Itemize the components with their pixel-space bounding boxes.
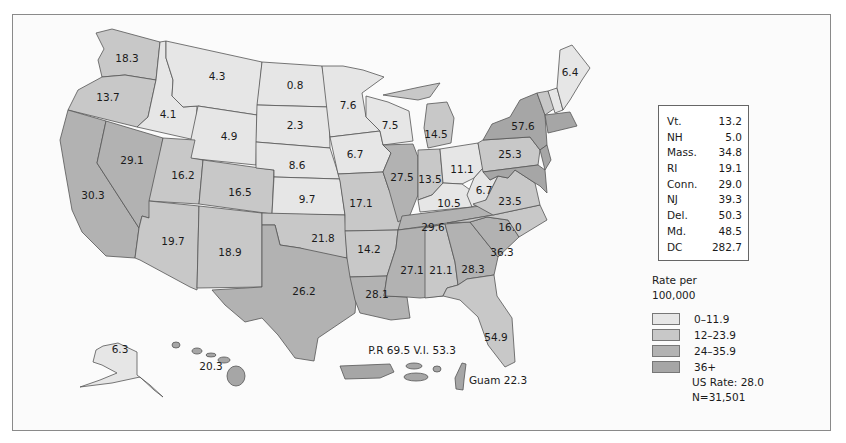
legend-swatch (652, 345, 680, 357)
legend-swatch (652, 329, 680, 341)
label-NE: 8.6 (289, 159, 306, 171)
legend-title-line1: Rate per (652, 273, 764, 288)
table-row: Md.48.5 (667, 224, 742, 240)
label-GA: 28.3 (461, 263, 484, 275)
label-NC: 16.0 (498, 221, 521, 233)
legend-title-line2: 100,000 (652, 288, 764, 303)
territory-VI (433, 366, 441, 372)
label-KY: 10.5 (437, 197, 460, 209)
label-FL: 54.9 (484, 331, 507, 343)
label-AL: 21.1 (429, 264, 452, 276)
label-IL: 27.5 (390, 171, 413, 183)
label-ID: 4.1 (160, 108, 177, 120)
table-row: DC282.7 (667, 240, 742, 256)
territory-PR (340, 364, 394, 379)
small-states-table: Vt.13.2 NH5.0 Mass.34.8 RI19.1 Conn.29.0… (658, 105, 749, 261)
table-row: Mass.34.8 (667, 145, 742, 161)
state-HI-island (206, 353, 216, 357)
table-row: Conn.29.0 (667, 177, 742, 193)
table-row: NH5.0 (667, 130, 742, 146)
legend-item: 12–23.9 (652, 327, 764, 343)
label-MN: 7.6 (340, 99, 357, 111)
label-guam: Guam 22.3 (469, 374, 527, 386)
label-NY: 57.6 (511, 120, 535, 132)
territory-VI (404, 373, 428, 381)
label-PA: 25.3 (498, 148, 521, 160)
label-ME: 6.4 (562, 66, 579, 78)
label-HI: 20.3 (199, 360, 222, 372)
label-NM: 18.9 (218, 246, 241, 258)
territory-Guam (455, 363, 466, 390)
sample-size: N=31,501 (692, 390, 764, 405)
label-MO: 17.1 (349, 197, 372, 209)
label-IA: 6.7 (347, 148, 364, 160)
table-row: RI19.1 (667, 161, 742, 177)
label-MI: 14.5 (424, 128, 447, 140)
label-OH: 11.1 (450, 163, 473, 175)
label-NV: 29.1 (120, 154, 143, 166)
label-pr-vi: P.R 69.5 V.I. 53.3 (368, 344, 456, 356)
table-row: NJ39.3 (667, 192, 742, 208)
label-SC: 36.3 (490, 246, 513, 258)
label-OK: 21.8 (311, 232, 334, 244)
legend-swatch (652, 361, 680, 373)
table-row: Del.50.3 (667, 208, 742, 224)
label-LA: 28.1 (365, 288, 388, 300)
legend-item: 36+ (652, 359, 764, 375)
label-WY: 4.9 (221, 130, 238, 142)
label-UT: 16.2 (171, 169, 194, 181)
label-CA: 30.3 (81, 189, 104, 201)
state-MA-CT-RI (545, 112, 577, 133)
legend: Rate per 100,000 0–11.9 12–23.9 24–35.9 … (652, 273, 764, 405)
label-AR: 14.2 (357, 243, 380, 255)
label-WA: 18.3 (115, 52, 138, 64)
label-MS: 27.1 (400, 264, 423, 276)
us-rate: US Rate: 28.0 (692, 375, 764, 390)
label-AK: 6.3 (112, 343, 129, 355)
label-SD: 2.3 (287, 119, 304, 131)
label-IN: 13.5 (418, 173, 441, 185)
label-VA: 23.5 (498, 195, 521, 207)
label-WI: 7.5 (382, 119, 399, 131)
territory-VI (406, 363, 422, 369)
state-HI-island (172, 342, 180, 348)
label-AZ: 19.7 (161, 235, 184, 247)
label-OR: 13.7 (96, 91, 119, 103)
label-KS: 9.7 (299, 193, 316, 205)
legend-swatch (652, 313, 680, 325)
label-CO: 16.5 (228, 186, 251, 198)
label-WV: 6.7 (476, 184, 493, 196)
legend-item: 24–35.9 (652, 343, 764, 359)
label-ND: 0.8 (287, 79, 304, 91)
legend-item: 0–11.9 (652, 311, 764, 327)
state-HI-island (227, 366, 245, 386)
label-TX: 26.2 (292, 285, 315, 297)
table-row: Vt.13.2 (667, 114, 742, 130)
label-MT: 4.3 (209, 70, 226, 82)
label-TN: 29.6 (421, 221, 445, 233)
state-HI-island (192, 348, 202, 354)
